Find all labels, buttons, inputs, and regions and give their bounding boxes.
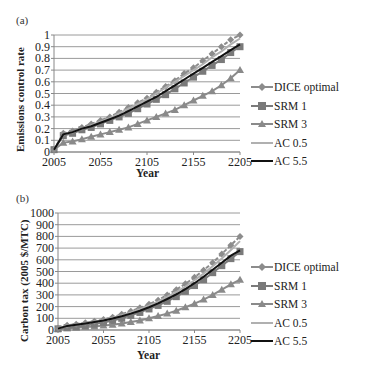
legend-item-ac-0-5: AC 0.5 bbox=[251, 314, 339, 333]
x-tick-label: 2055 bbox=[92, 333, 116, 347]
triangle-marker-icon bbox=[251, 119, 273, 129]
line-marker-icon bbox=[251, 318, 273, 328]
triangle-marker bbox=[236, 276, 244, 283]
legend-item-ac-5-5: AC 5.5 bbox=[251, 152, 339, 171]
chart-b-legend: DICE optimal SRM 1 SRM 3 AC 0.5 AC 5.5 bbox=[251, 258, 339, 351]
legend-item-srm-3: SRM 3 bbox=[251, 295, 339, 314]
x-tick-label: 2155 bbox=[183, 333, 207, 347]
legend-item-srm-1: SRM 1 bbox=[251, 97, 339, 116]
x-tick-label: 2205 bbox=[228, 333, 252, 347]
legend-item-dice-optimal: DICE optimal bbox=[251, 78, 339, 97]
line-marker-icon bbox=[251, 156, 273, 166]
legend-item-srm-1: SRM 1 bbox=[251, 277, 339, 296]
line-marker-icon bbox=[251, 138, 273, 148]
legend-item-ac-0-5: AC 0.5 bbox=[251, 134, 339, 153]
legend-item-dice-optimal: DICE optimal bbox=[251, 258, 339, 277]
triangle-marker-icon bbox=[251, 299, 273, 309]
legend-item-srm-3: SRM 3 bbox=[251, 115, 339, 134]
legend-item-ac-5-5: AC 5.5 bbox=[251, 332, 339, 351]
chart-a-legend: DICE optimal SRM 1 SRM 3 AC 0.5 AC 5.5 bbox=[251, 78, 339, 171]
square-marker-icon bbox=[251, 281, 273, 291]
diamond-marker-icon bbox=[251, 82, 273, 92]
line-marker-icon bbox=[251, 336, 273, 346]
square-marker-icon bbox=[251, 101, 273, 111]
y-tick-label: 1000 bbox=[30, 206, 54, 220]
x-tick-label: 2105 bbox=[137, 333, 161, 347]
x-tick-label: 2005 bbox=[46, 333, 70, 347]
diamond-marker-icon bbox=[251, 262, 273, 272]
